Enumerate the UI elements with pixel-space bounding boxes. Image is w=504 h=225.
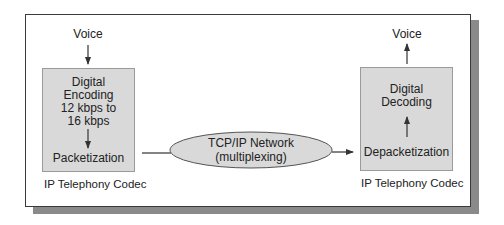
network-label: TCP/IP Network (multiplexing) — [170, 136, 332, 164]
network-label-line2: (multiplexing) — [170, 150, 332, 164]
diagram-connectors — [0, 0, 504, 225]
network-label-line1: TCP/IP Network — [170, 136, 332, 150]
